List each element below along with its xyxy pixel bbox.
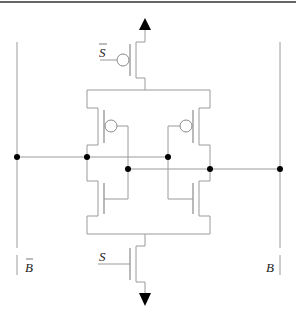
pmos-right <box>168 108 210 169</box>
junction-dot <box>207 166 213 172</box>
pmos-header <box>100 30 145 90</box>
top-rail <box>87 90 210 108</box>
inverter-bubble-icon <box>117 54 129 66</box>
junction-dot <box>125 166 131 172</box>
bitline-label: B <box>266 260 274 275</box>
junction-dot <box>165 154 171 160</box>
supply-arrow-icon <box>139 18 151 30</box>
inverter-bubble-icon <box>105 120 117 132</box>
pmos-left <box>87 108 128 169</box>
svg-text:S: S <box>99 45 106 60</box>
junction-dot <box>14 154 20 160</box>
junction-dot <box>277 166 283 172</box>
inverter-bubble-icon <box>180 120 192 132</box>
junction-dot <box>84 154 90 160</box>
ground-arrow-icon <box>139 293 151 306</box>
sense-enable-label: S <box>99 249 106 264</box>
nmos-left <box>87 157 128 234</box>
bitline-bar-label: B <box>25 259 33 275</box>
sense-enable-bar-label: S <box>99 44 107 60</box>
svg-text:B: B <box>25 260 33 275</box>
sense-amplifier-diagram: S S <box>0 0 296 319</box>
